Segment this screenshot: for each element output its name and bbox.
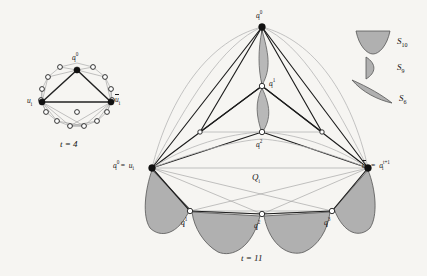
left-ubar-label: ui [115, 96, 120, 106]
q2-label: q2i [254, 220, 258, 231]
legend-shape-crescent [352, 80, 392, 103]
quad-label: Qi [252, 173, 260, 184]
left-open-vertices [39, 65, 115, 129]
figure-svg: .e-dark{stroke:#1d1d1d;stroke-width:1.15… [0, 0, 427, 276]
legend-shape-funnel [356, 31, 390, 54]
mid1-label: a1i [269, 78, 273, 89]
right-caption: t = 11 [241, 253, 262, 263]
left-filled-vertices [39, 67, 114, 105]
legend-label-s10: S10 [397, 36, 408, 48]
left-triangle-edges [42, 70, 111, 102]
lens-region-lower [257, 88, 269, 133]
figure-canvas: .e-dark{stroke:#1d1d1d;stroke-width:1.15… [0, 0, 427, 276]
legend-shapes-group [352, 31, 392, 103]
lens-region-upper [259, 30, 268, 85]
left-apex-label: a0i [72, 52, 76, 63]
left-corner-label: a0i = ui [113, 160, 134, 171]
funnel-region-3 [264, 212, 330, 253]
q3-label: q3i [324, 217, 328, 228]
apex-label: a0i [256, 10, 260, 21]
legend-label-s6: S6 [399, 93, 407, 105]
q1-label: q1i [181, 217, 185, 228]
legend-shape-petal [366, 57, 374, 79]
funnel-region-2 [192, 212, 260, 254]
mid2-label: a2i [256, 139, 260, 150]
legend-label-s9: S9 [397, 62, 405, 74]
left-caption: t = 4 [60, 139, 78, 149]
left-u-label: ui [27, 97, 32, 107]
left-gadget-group [39, 63, 115, 128]
right-corner-label: ui = at+1i [362, 160, 383, 171]
